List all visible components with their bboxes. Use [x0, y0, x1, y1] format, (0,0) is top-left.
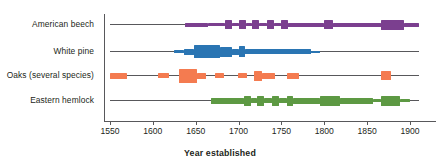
data-segment — [208, 23, 225, 26]
data-segment — [333, 23, 381, 27]
plot-area: American beechWhite pineOaks (several sp… — [104, 14, 436, 118]
x-tick-label: 1600 — [133, 126, 173, 136]
x-tick — [324, 121, 325, 125]
data-segment — [232, 49, 239, 55]
data-segment — [251, 98, 258, 103]
x-axis-title: Year established — [0, 148, 440, 158]
data-segment — [381, 71, 391, 80]
chart-row: White pine — [104, 41, 436, 63]
data-segment — [158, 73, 169, 78]
data-segment — [320, 96, 340, 106]
data-segment — [324, 20, 333, 29]
row-label-eastern-hemlock: Eastern hemlock — [0, 95, 94, 105]
data-segment — [272, 96, 279, 106]
data-segment — [215, 73, 224, 78]
x-tick — [196, 121, 197, 125]
data-segment — [281, 20, 288, 29]
data-segment — [287, 96, 294, 106]
data-segment — [404, 23, 419, 27]
data-segment — [381, 96, 400, 106]
data-segment — [252, 20, 259, 29]
row-label-american-beech: American beech — [0, 19, 94, 29]
data-segment — [244, 96, 251, 106]
data-segment — [239, 20, 246, 29]
x-tick-label: 1750 — [261, 126, 301, 136]
x-tick-label: 1550 — [90, 126, 130, 136]
data-segment — [262, 73, 275, 79]
data-segment — [239, 46, 246, 57]
x-tick — [281, 121, 282, 125]
data-segment — [311, 51, 320, 53]
x-tick-label: 1900 — [390, 126, 430, 136]
data-segment — [373, 99, 381, 102]
data-segment — [259, 23, 267, 26]
data-segment — [225, 20, 232, 29]
x-tick-label: 1800 — [304, 126, 344, 136]
chart-row: Oaks (several species) — [104, 65, 436, 87]
x-tick — [110, 121, 111, 125]
x-tick-label: 1850 — [347, 126, 387, 136]
x-tick — [367, 121, 368, 125]
data-segment — [245, 49, 311, 54]
chart-row: American beech — [104, 14, 436, 36]
x-tick — [239, 121, 240, 125]
data-segment — [381, 20, 404, 30]
data-segment — [220, 47, 232, 57]
data-segment — [184, 49, 194, 55]
data-segment — [287, 73, 299, 79]
x-tick-label: 1700 — [219, 126, 259, 136]
data-segment — [288, 23, 324, 27]
data-segment — [267, 20, 274, 29]
data-segment — [232, 23, 240, 26]
data-segment — [279, 98, 287, 103]
data-segment — [185, 23, 208, 27]
data-segment — [257, 96, 264, 106]
x-tick — [153, 121, 154, 125]
data-segment — [254, 71, 262, 81]
data-segment — [179, 69, 198, 83]
data-segment — [211, 98, 244, 104]
data-segment — [110, 73, 127, 79]
x-tick — [410, 121, 411, 125]
data-segment — [293, 98, 320, 104]
data-segment — [264, 98, 272, 103]
data-segment — [274, 23, 282, 26]
data-segment — [197, 73, 206, 79]
row-label-white-pine: White pine — [0, 46, 94, 56]
data-segment — [174, 50, 183, 53]
tree-establishment-chart: American beechWhite pineOaks (several sp… — [0, 0, 440, 168]
chart-row: Eastern hemlock — [104, 90, 436, 112]
data-segment — [194, 45, 220, 58]
data-segment — [238, 73, 247, 78]
row-label-oaks-several-species: Oaks (several species) — [0, 70, 94, 80]
x-tick-label: 1650 — [176, 126, 216, 136]
data-segment — [400, 99, 410, 102]
data-segment — [340, 98, 373, 104]
